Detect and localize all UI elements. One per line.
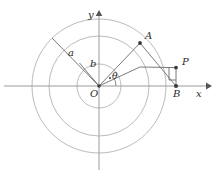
label-axis-y: y bbox=[88, 10, 94, 20]
segment-CP-line bbox=[140, 67, 176, 68]
ray-OC-line bbox=[99, 67, 140, 86]
label-point-B: B bbox=[173, 89, 180, 99]
label-theta: θ bbox=[112, 72, 117, 81]
label-point-A: A bbox=[145, 31, 152, 41]
label-origin-O: O bbox=[90, 89, 98, 99]
point-dot-A bbox=[138, 41, 142, 45]
right-angle-mark bbox=[169, 68, 176, 80]
y-axis-arrow-icon bbox=[96, 10, 103, 16]
diagram-svg bbox=[0, 0, 218, 175]
label-axis-x: x bbox=[196, 89, 202, 99]
x-axis-arrow-icon bbox=[206, 83, 212, 90]
label-b: b bbox=[90, 59, 96, 69]
label-a: a bbox=[68, 48, 74, 58]
point-dot-P bbox=[174, 66, 178, 70]
figure-canvas: a b θ O A P B x y bbox=[0, 0, 218, 175]
theta-dot bbox=[109, 77, 111, 79]
label-point-P: P bbox=[182, 57, 189, 67]
